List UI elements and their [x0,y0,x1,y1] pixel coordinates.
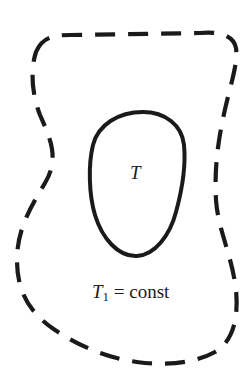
inner-temperature-label: T [130,162,141,184]
outer-temperature-label: T1 = const [92,281,169,305]
diagram-shapes [0,0,251,385]
outer-label-rest: = const [109,281,169,302]
inner-solid-boundary [90,112,185,256]
outer-label-variable: T [92,281,103,302]
outer-dashed-boundary [17,33,237,364]
diagram-canvas: T T1 = const [0,0,251,385]
